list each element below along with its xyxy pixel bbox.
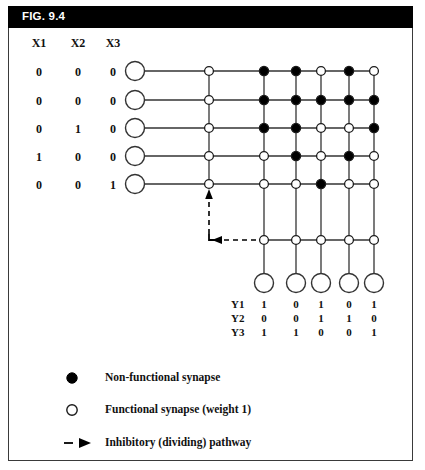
legend-arrowhead-icon	[79, 438, 91, 448]
legend-label-inhibitory: Inhibitory (dividing) pathway	[105, 436, 251, 448]
legend-label-non-functional: Non-functional synapse	[105, 371, 220, 383]
legend-markers	[0, 0, 425, 470]
legend-label-functional: Functional synapse (weight 1)	[105, 403, 251, 415]
figure-root: FIG. 9.4 X1 X2 X3 0 0 0 0 0 0 0 1 0 1 0 …	[0, 0, 425, 470]
legend-open-circle-icon	[67, 405, 77, 415]
legend-filled-circle-icon	[67, 373, 77, 383]
